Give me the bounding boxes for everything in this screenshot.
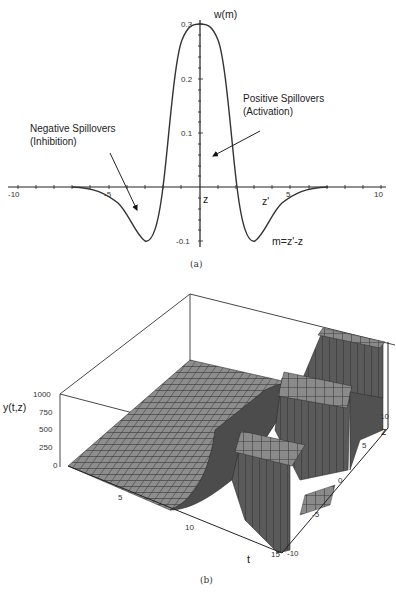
x-tick-5: 5 (286, 190, 291, 199)
caption-b: (b) (200, 575, 213, 585)
z-label: z (203, 193, 208, 205)
m-definition-label: m=z'-z (272, 235, 303, 247)
y-axis-label-b: y(t,z) (3, 401, 26, 413)
z-tick-neg10: -10 (287, 549, 299, 558)
t-tick-5: 5 (118, 493, 123, 502)
y-tick-500: 500 (39, 425, 53, 434)
y-tick-0.1: 0.1 (181, 129, 193, 138)
z-axis-label: z (381, 425, 387, 437)
y-tick-0.2: 0.2 (181, 75, 193, 84)
z-prime-label: z' (262, 195, 269, 207)
t-axis-label: t (247, 553, 250, 565)
z-tick-0: 0 (338, 476, 343, 485)
activation-label: (Activation) (243, 106, 293, 117)
inhibition-label: (Inhibition) (30, 136, 77, 147)
y-tick-0.3: 0.3 (181, 20, 193, 29)
x-tick-10: 10 (374, 190, 383, 199)
panel-a-chart: -10 -5 5 10 0.3 0.2 0.1 -0.1 w(m) z z' m… (8, 8, 386, 269)
figure-canvas: -10 -5 5 10 0.3 0.2 0.1 -0.1 w(m) z z' m… (0, 0, 396, 593)
y-axis-label: w(m) (213, 8, 237, 20)
z-tick-5: 5 (362, 441, 367, 450)
positive-arrow-icon (213, 131, 260, 156)
t-tick-10: 10 (185, 523, 194, 532)
panel-b-chart: 1000 750 500 250 0 y(t,z) 5 10 15 t 10 5… (3, 294, 395, 585)
y-tick-neg0.1: -0.1 (176, 237, 190, 246)
y-tick-1000: 1000 (33, 390, 51, 399)
surface-right-wall (350, 392, 383, 470)
y-tick-750: 750 (39, 408, 53, 417)
caption-a: (a) (190, 259, 202, 269)
positive-spillovers-label: Positive Spillovers (243, 93, 324, 104)
t-tick-15: 15 (271, 550, 280, 559)
negative-arrow-icon (110, 153, 137, 210)
z-tick-10: 10 (380, 412, 389, 421)
y-tick-250: 250 (39, 443, 53, 452)
x-tick-neg5: -5 (104, 190, 112, 199)
z-tick-neg5: -5 (312, 510, 320, 519)
y-tick-0: 0 (53, 461, 58, 470)
x-tick-neg10: -10 (8, 190, 20, 199)
negative-spillovers-label: Negative Spillovers (30, 123, 116, 134)
